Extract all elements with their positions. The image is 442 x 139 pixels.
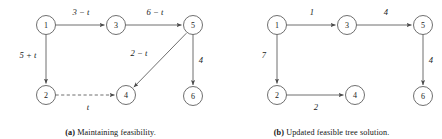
node-1-label: 1 <box>44 21 48 30</box>
edge-label-1-3: 1 <box>310 7 314 17</box>
caption-a-tag: (a) <box>65 128 75 137</box>
caption-b-text: Updated feasible tree solution. <box>286 128 389 137</box>
node-3-label: 3 <box>114 21 118 30</box>
edge-label-3-5: 6 − t <box>147 7 164 17</box>
edge-label-2-4: t <box>87 102 90 112</box>
node-2-label: 2 <box>44 91 48 100</box>
node-5-label: 5 <box>191 21 195 30</box>
edge-label-5-6: 4 <box>429 55 434 65</box>
edge-5-4 <box>134 33 187 87</box>
node-6-label: 6 <box>421 92 425 101</box>
caption-b: (b) Updated feasible tree solution. <box>221 128 442 137</box>
edge-label-3-5: 4 <box>384 7 389 17</box>
edge-label-1-3: 3 − t <box>72 7 90 17</box>
node-5-label: 5 <box>421 21 425 30</box>
node-4-label: 4 <box>353 91 357 100</box>
graph-diagram-b: 1 3 5 2 4 6 1 4 7 2 4 <box>221 0 442 139</box>
node-4-label: 4 <box>124 91 128 100</box>
edge-label-2-4: 2 <box>314 102 319 112</box>
subfigure-a: 1 3 5 2 4 6 3 − t 6 − t 5 + t t 2 − t 4 … <box>0 0 221 139</box>
edge-label-5-6: 4 <box>199 55 204 65</box>
node-6-label: 6 <box>191 92 195 101</box>
graph-diagram-a: 1 3 5 2 4 6 3 − t 6 − t 5 + t t 2 − t 4 <box>0 0 221 139</box>
figure-row: 1 3 5 2 4 6 3 − t 6 − t 5 + t t 2 − t 4 … <box>0 0 442 139</box>
edge-label-1-2: 7 <box>262 50 267 60</box>
subfigure-b: 1 3 5 2 4 6 1 4 7 2 4 (b) Updated feasib… <box>221 0 442 139</box>
node-3-label: 3 <box>345 21 349 30</box>
caption-a-text: Maintaining feasibility. <box>77 128 156 137</box>
edge-label-5-4: 2 − t <box>131 48 148 58</box>
edge-label-1-2: 5 + t <box>20 50 37 60</box>
caption-b-tag: (b) <box>274 128 284 137</box>
caption-a: (a) Maintaining feasibility. <box>0 128 221 137</box>
node-2-label: 2 <box>275 91 279 100</box>
node-1-label: 1 <box>275 21 279 30</box>
